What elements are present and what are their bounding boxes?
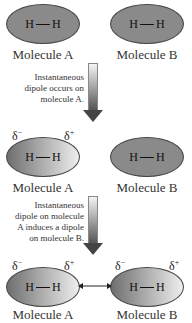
- bond: [36, 24, 50, 25]
- bond: [140, 287, 154, 288]
- caption-line: on molecule B.: [4, 233, 84, 244]
- caption-line: Instantaneous: [8, 72, 84, 83]
- molecule-a-neutral: HH: [6, 4, 80, 44]
- label-molecule-b: Molecule B: [102, 47, 192, 63]
- atom-h: H: [129, 280, 138, 295]
- label-molecule-b: Molecule B: [102, 180, 192, 196]
- molecule-a-dipole: HH: [6, 267, 80, 307]
- bond: [36, 287, 50, 288]
- caption-line: molecule A.: [8, 94, 84, 105]
- label-molecule-b: Molecule B: [102, 307, 192, 323]
- atom-h: H: [156, 150, 165, 165]
- atom-h: H: [52, 150, 61, 165]
- molecule-b-neutral: HH: [110, 137, 184, 177]
- molecule-b-dipole: HH: [110, 267, 184, 307]
- label-molecule-a: Molecule A: [0, 180, 88, 196]
- atom-h: H: [129, 150, 138, 165]
- atom-h: H: [52, 280, 61, 295]
- label-molecule-a: Molecule A: [0, 307, 88, 323]
- down-arrow-icon: [83, 110, 103, 122]
- atom-h: H: [25, 17, 34, 32]
- bond: [140, 24, 154, 25]
- atom-h: H: [129, 17, 138, 32]
- atom-h: H: [156, 280, 165, 295]
- bond: [36, 157, 50, 158]
- atom-h: H: [25, 280, 34, 295]
- molecule-b-neutral: HH: [110, 4, 184, 44]
- step-1-caption: Instantaneous dipole occurs on molecule …: [8, 72, 84, 105]
- down-arrow-shaft: [88, 196, 98, 244]
- down-arrow-icon: [83, 243, 103, 255]
- label-molecule-a: Molecule A: [0, 47, 88, 63]
- caption-line: Instantaneous: [4, 200, 84, 211]
- bond: [140, 157, 154, 158]
- atom-h: H: [25, 150, 34, 165]
- molecule-a-dipole: HH: [6, 137, 80, 177]
- atom-h: H: [156, 17, 165, 32]
- step-2-caption: Instantaneous dipole on molecule A induc…: [4, 200, 84, 244]
- caption-line: dipole occurs on: [8, 83, 84, 94]
- atom-h: H: [52, 17, 61, 32]
- down-arrow-shaft: [88, 63, 98, 111]
- caption-line: A induces a dipole: [4, 222, 84, 233]
- caption-line: dipole on molecule: [4, 211, 84, 222]
- double-headed-arrow-icon: [78, 281, 112, 291]
